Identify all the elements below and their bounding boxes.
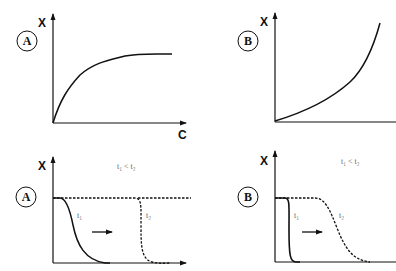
y-axis-label: X [38, 159, 46, 173]
y-axis-label: X [38, 16, 46, 30]
badge-label: A [22, 190, 31, 204]
panel-top-right: X B [238, 13, 396, 122]
curve-t2-label: t₂ [146, 211, 151, 220]
panel-bottom-left: X t₁ < t₂ A t₁ t₂ [16, 157, 191, 263]
badge-label: A [23, 34, 32, 48]
curve-t1-label: t₁ [294, 211, 299, 220]
saturation-curve [53, 54, 172, 123]
y-axis-label: X [260, 15, 268, 29]
curve-t2 [53, 198, 170, 263]
badge-label: B [244, 190, 252, 204]
curve-t2-label: t₂ [339, 211, 344, 220]
diagram-canvas: X C A X B X t₁ < t₂ A t₁ t₂ X t₁ < t₂ B [0, 0, 396, 271]
x-axis-label: C [178, 128, 187, 142]
curve-t1 [275, 198, 300, 262]
panel-top-left: X C A [17, 14, 187, 142]
panel-bottom-right: X t₁ < t₂ B t₁ t₂ [238, 151, 396, 262]
condition-label: t₁ < t₂ [341, 157, 360, 166]
curve-t1-label: t₁ [77, 211, 82, 220]
curve-t1 [53, 198, 110, 263]
exponential-curve [275, 23, 380, 121]
condition-label: t₁ < t₂ [117, 162, 136, 171]
badge-label: B [244, 34, 252, 48]
y-axis-label: X [260, 154, 268, 168]
